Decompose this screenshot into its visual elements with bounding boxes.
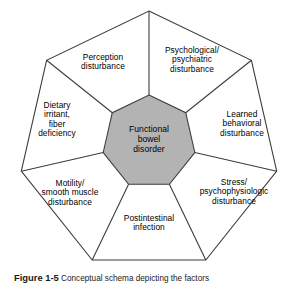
figure-caption-text: Conceptual schema depicting the factors	[61, 274, 209, 283]
figure-caption-number: Figure 1-5	[14, 272, 59, 283]
wheel-diagram	[0, 0, 296, 285]
figure-caption: Figure 1-5 Conceptual schema depicting t…	[14, 272, 286, 285]
figure-container: Psychological/ psychiatric disturbance L…	[0, 0, 296, 285]
